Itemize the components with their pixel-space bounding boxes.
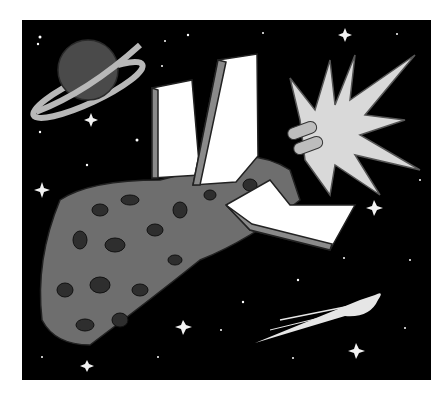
crater (168, 255, 182, 265)
star (292, 357, 294, 359)
star (262, 32, 264, 34)
crater (173, 202, 187, 218)
star (396, 33, 398, 35)
fin-left (152, 80, 200, 178)
crater (90, 277, 110, 293)
star (343, 257, 345, 259)
star (220, 329, 222, 331)
star (242, 301, 244, 303)
star (409, 259, 411, 261)
star (86, 164, 88, 166)
crater (147, 224, 163, 236)
fin-left-edge (152, 88, 158, 178)
crater (105, 238, 125, 252)
star (164, 40, 166, 42)
star (187, 34, 189, 36)
crater (132, 284, 148, 296)
star (297, 279, 299, 281)
star (404, 327, 406, 329)
star (419, 179, 421, 181)
crater (92, 204, 108, 216)
star (37, 43, 39, 45)
star (41, 356, 43, 358)
star (161, 65, 163, 67)
crater (121, 195, 139, 205)
star (39, 36, 42, 39)
star (39, 131, 41, 133)
crater (76, 319, 94, 331)
star (157, 356, 159, 358)
crater (112, 313, 128, 327)
crater (57, 283, 73, 297)
crater (73, 231, 87, 249)
star (136, 139, 139, 142)
crater (204, 190, 216, 200)
space-illustration (0, 0, 440, 403)
